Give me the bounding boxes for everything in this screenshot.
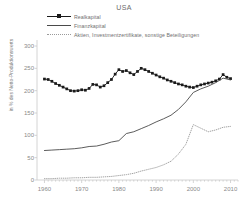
series-marker [151,72,154,75]
series-marker [147,70,150,73]
series-marker [199,84,202,87]
series-marker [170,80,173,83]
legend-item-1: Finanzkapital [47,21,199,30]
series-marker [207,82,210,85]
chart-legend: RealkapitalFinanzkapitalAktien, Investme… [47,12,199,39]
legend-item-2: Aktien, Investmentzertifikate, sonstige … [47,30,199,39]
legend-item-0: Realkapital [47,12,199,21]
series-marker [196,85,199,88]
series-marker [225,76,228,79]
legend-key-icon [47,12,71,21]
legend-key-icon [47,21,71,30]
series-marker [162,77,165,80]
legend-label: Aktien, Investmentzertifikate, sonstige … [74,32,199,38]
series-marker [88,87,91,90]
series-marker [73,90,76,93]
series-marker [166,79,169,82]
series-marker [43,78,46,81]
series-line-1 [44,78,230,150]
series-marker [69,89,72,92]
legend-marker-icon [57,14,61,18]
series-marker [77,89,80,92]
series-marker [140,67,143,70]
legend-label: Realkapital [74,14,101,20]
series-marker [132,73,135,76]
legend-label: Finanzkapital [74,23,106,29]
series-marker [103,84,106,87]
series-marker [118,68,121,71]
series-marker [211,81,214,84]
series-marker [91,83,94,86]
series-marker [144,68,147,71]
series-marker [192,86,195,89]
series-marker [106,81,109,84]
series-marker [99,86,102,89]
series-marker [188,86,191,89]
series-line-2 [44,125,230,179]
series-marker [173,81,176,84]
series-marker [222,73,225,76]
series-marker [80,88,83,91]
series-marker [125,69,128,72]
series-marker [114,73,117,76]
legend-key-icon [47,30,71,39]
series-marker [181,84,184,87]
chart-figure: USA in % des Netto-Produktionswerts 0501… [0,0,248,207]
series-marker [110,78,113,81]
series-marker [54,82,57,85]
series-marker [129,71,132,74]
series-marker [65,88,68,91]
series-marker [121,70,124,73]
series-marker [51,80,54,83]
series-marker [58,84,61,87]
series-marker [158,75,161,78]
series-marker [62,86,65,89]
series-marker [84,89,87,92]
series-marker [136,70,139,73]
series-marker [95,84,98,87]
series-marker [203,83,206,86]
series-marker [155,74,158,77]
series-marker [185,85,188,88]
series-marker [177,83,180,86]
series-marker [47,78,50,81]
